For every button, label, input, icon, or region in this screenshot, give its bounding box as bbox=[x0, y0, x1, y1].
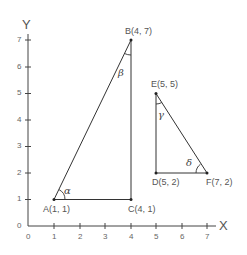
y-tick-6: 6 bbox=[17, 63, 21, 71]
y-tick-7: 7 bbox=[17, 36, 21, 44]
angle-label-delta: δ bbox=[186, 158, 192, 168]
y-tick-4: 4 bbox=[17, 116, 21, 124]
y-tick-1: 1 bbox=[17, 195, 21, 203]
x-tick-2: 2 bbox=[78, 233, 82, 241]
y-tick-3: 3 bbox=[17, 142, 21, 150]
x-tick-5: 5 bbox=[154, 233, 158, 241]
angle-label-gamma: γ bbox=[158, 110, 164, 120]
point-label-f: F(7, 2) bbox=[206, 178, 233, 187]
x-tick-7: 7 bbox=[205, 233, 209, 241]
x-tick-0: 0 bbox=[26, 233, 30, 241]
point-label-d: D(5, 2) bbox=[152, 178, 180, 187]
y-tick-2: 2 bbox=[17, 169, 21, 177]
x-tick-3: 3 bbox=[103, 233, 107, 241]
coordinate-diagram: Y X 0 1 2 3 4 5 6 7 0 1 2 3 4 5 6 7 A(1,… bbox=[0, 0, 247, 255]
x-tick-6: 6 bbox=[180, 233, 184, 241]
y-tick-0: 0 bbox=[17, 222, 21, 230]
triangle-abc bbox=[54, 40, 131, 200]
angle-label-beta: β bbox=[118, 68, 124, 78]
angle-arc-beta bbox=[125, 54, 132, 56]
y-axis-title: Y bbox=[22, 18, 31, 31]
point-label-c: C(4, 1) bbox=[128, 205, 156, 214]
angle-label-alpha: α bbox=[64, 186, 71, 196]
x-axis-title: X bbox=[219, 219, 228, 232]
diagram-graphics bbox=[0, 0, 247, 255]
triangle-def bbox=[156, 94, 207, 174]
point-label-a: A(1, 1) bbox=[43, 205, 70, 214]
y-tick-5: 5 bbox=[17, 89, 21, 97]
x-tick-1: 1 bbox=[52, 233, 56, 241]
point-label-e: E(5, 5) bbox=[151, 80, 178, 89]
angle-arc-gamma bbox=[156, 103, 162, 105]
x-tick-4: 4 bbox=[129, 233, 133, 241]
point-label-b: B(4, 7) bbox=[125, 27, 152, 36]
angle-arc-delta bbox=[196, 164, 201, 173]
